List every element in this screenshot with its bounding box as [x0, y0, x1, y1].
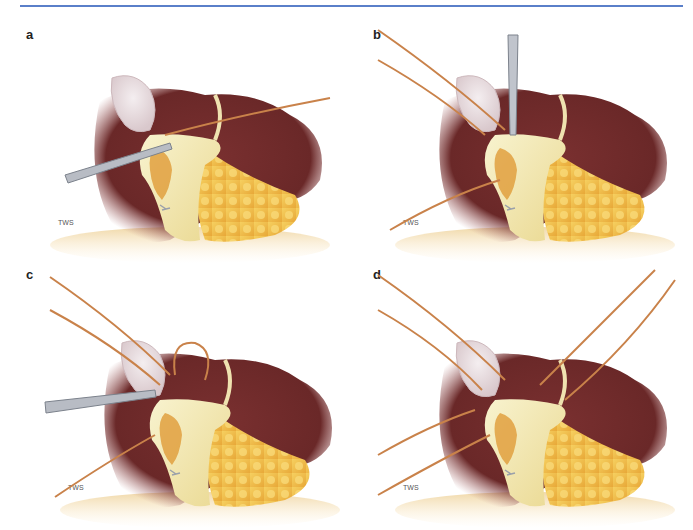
illustration-d — [370, 265, 693, 530]
panel-a: a — [20, 25, 350, 255]
illustration-a — [20, 25, 350, 255]
panel-d: d — [370, 265, 693, 530]
panel-c: c — [20, 265, 350, 530]
illustration-c — [20, 265, 350, 530]
illustration-b — [370, 25, 693, 255]
header-rule — [20, 5, 683, 7]
panel-b: b — [370, 25, 693, 255]
clamp-icon — [508, 35, 518, 135]
